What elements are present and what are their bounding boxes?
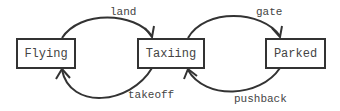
transition-label-takeoff: takeoff (128, 89, 174, 101)
arrow-pushback (188, 68, 280, 92)
state-parked: Parked (265, 38, 326, 69)
transition-label-pushback: pushback (234, 93, 287, 105)
state-taxiing: Taxiing (137, 38, 205, 69)
arrow-gate (188, 16, 280, 38)
arrow-land (62, 18, 152, 39)
state-flying: Flying (16, 38, 76, 69)
transition-label-land: land (110, 6, 136, 18)
state-flying-label: Flying (24, 47, 67, 61)
transition-label-gate: gate (256, 6, 282, 18)
state-parked-label: Parked (274, 47, 317, 61)
state-taxiing-label: Taxiing (146, 47, 196, 61)
